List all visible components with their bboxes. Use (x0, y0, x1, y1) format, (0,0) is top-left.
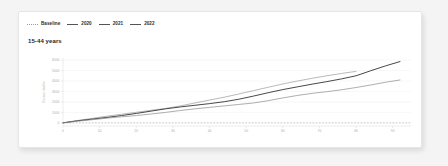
y-tick-label: 2000 (52, 100, 60, 104)
y-tick-label: 5000 (52, 69, 60, 73)
y-tick-label: 4000 (52, 79, 60, 83)
x-tick-label: 20 (134, 129, 138, 133)
x-tick-label: 30 (171, 129, 175, 133)
legend-swatch-2021-icon (99, 24, 110, 25)
y-tick-label: 3000 (52, 90, 60, 94)
x-tick-label: 90 (391, 129, 395, 133)
x-tick-label: 40 (208, 129, 212, 133)
series-line-2020 (63, 71, 356, 122)
legend-label-2022: 2022 (144, 22, 154, 27)
legend-swatch-baseline-icon (27, 24, 38, 25)
legend-label-2021: 2021 (113, 22, 123, 27)
x-tick-label: 80 (354, 129, 358, 133)
x-tick-label: 0 (62, 129, 64, 133)
chart-legend: Baseline 2020 2021 2022 (27, 18, 155, 30)
y-axis-title: Excess deaths (42, 81, 46, 103)
legend-swatch-2020-icon (67, 24, 78, 25)
legend-item-2020[interactable]: 2020 (67, 22, 91, 27)
legend-label-2020: 2020 (81, 22, 91, 27)
chart-card: Baseline 2020 2021 2022 15-44 years 0100… (18, 11, 422, 148)
line-chart: 0100020003000400050006000010203040506070… (19, 52, 421, 148)
legend-item-2022[interactable]: 2022 (130, 22, 154, 27)
legend-label-baseline: Baseline (41, 22, 60, 27)
screenshot-root: Baseline 2020 2021 2022 15-44 years 0100… (0, 0, 448, 166)
legend-swatch-2022-icon (130, 24, 141, 25)
x-tick-label: 10 (98, 129, 102, 133)
legend-item-2021[interactable]: 2021 (99, 22, 123, 27)
x-tick-label: 50 (244, 129, 248, 133)
x-tick-label: 70 (318, 129, 322, 133)
x-tick-label: 60 (281, 129, 285, 133)
plot-area: 0100020003000400050006000010203040506070… (19, 52, 421, 148)
y-tick-label: 0 (58, 121, 60, 125)
page-title: 15-44 years (28, 38, 62, 44)
y-tick-label: 6000 (52, 58, 60, 62)
legend-item-baseline[interactable]: Baseline (27, 22, 60, 27)
y-tick-label: 1000 (52, 111, 60, 115)
